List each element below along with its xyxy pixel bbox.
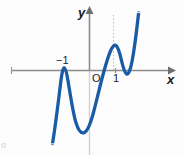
x-axis-label: x — [167, 73, 174, 86]
figure-canvas: y x O −1 1 o — [0, 0, 183, 155]
y-axis-label: y — [78, 6, 85, 19]
x-tick-label-one: 1 — [113, 73, 119, 84]
x-tick-label-minus-one: −1 — [56, 55, 69, 66]
corner-mark: o — [1, 140, 6, 150]
origin-label: O — [92, 73, 101, 84]
y-axis-arrowhead — [86, 6, 94, 14]
